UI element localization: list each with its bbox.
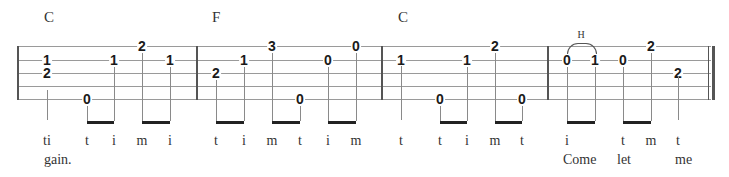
fret-number: 0 xyxy=(435,92,445,106)
note-stem xyxy=(623,67,624,121)
beam xyxy=(216,121,244,124)
picking-finger: t xyxy=(520,133,524,149)
note-stem xyxy=(170,67,171,121)
note-stem xyxy=(356,53,357,121)
note-stem xyxy=(272,53,273,121)
final-barline xyxy=(712,46,715,100)
picking-finger: m xyxy=(490,133,501,149)
chord-symbol: C xyxy=(44,9,54,26)
lyric-word: let xyxy=(617,152,631,168)
beam xyxy=(272,121,300,124)
fret-number: 2 xyxy=(646,39,656,53)
fret-number: 2 xyxy=(137,39,147,53)
staff-line xyxy=(17,46,711,47)
lyric-word: Come xyxy=(563,152,596,168)
barline xyxy=(547,46,549,100)
note-stem xyxy=(567,67,568,121)
picking-finger: t xyxy=(438,133,442,149)
beam xyxy=(440,121,467,124)
final-barline xyxy=(708,46,709,100)
note-stem xyxy=(244,67,245,121)
fret-number: 1 xyxy=(396,53,406,67)
fret-number: 1 xyxy=(462,53,472,67)
note-stem xyxy=(114,67,115,121)
picking-finger: m xyxy=(646,133,657,149)
picking-finger: i xyxy=(242,133,246,149)
note-stem xyxy=(651,53,652,121)
picking-finger: m xyxy=(267,133,278,149)
picking-finger: i xyxy=(465,133,469,149)
beam xyxy=(142,121,170,124)
fret-number: 2 xyxy=(490,39,500,53)
picking-finger: t xyxy=(399,133,403,149)
fret-number: 0 xyxy=(562,53,572,67)
note-stem xyxy=(47,90,48,120)
note-stem xyxy=(595,67,596,121)
picking-finger: i xyxy=(112,133,116,149)
staff-line xyxy=(17,73,711,74)
fret-number: 2 xyxy=(211,66,221,80)
fret-number: 1 xyxy=(165,53,175,67)
fret-number: 1 xyxy=(590,53,600,67)
hammer-on-label: H xyxy=(577,29,584,40)
chord-symbol: F xyxy=(212,9,220,26)
picking-finger: m xyxy=(137,133,148,149)
barline xyxy=(381,46,383,100)
fret-number: 1 xyxy=(239,53,249,67)
note-stem xyxy=(328,67,329,121)
hammer-on-arc xyxy=(567,43,597,54)
picking-finger: i xyxy=(168,133,172,149)
fret-number: 0 xyxy=(295,92,305,106)
fret-number: 3 xyxy=(267,39,277,53)
beam xyxy=(87,121,114,124)
barline xyxy=(17,46,19,100)
picking-finger: t xyxy=(85,133,89,149)
fret-number: 0 xyxy=(323,53,333,67)
note-stem xyxy=(495,53,496,121)
chord-symbol: C xyxy=(398,9,408,26)
picking-finger: t xyxy=(621,133,625,149)
lyric-word: me xyxy=(675,152,692,168)
fret-number: 0 xyxy=(82,92,92,106)
picking-finger: ti xyxy=(43,133,51,149)
note-stem xyxy=(440,106,441,121)
staff-line xyxy=(17,60,711,61)
note-stem xyxy=(467,67,468,121)
fret-number: 0 xyxy=(351,39,361,53)
barline xyxy=(196,46,198,100)
beam xyxy=(495,121,522,124)
fret-number: 2 xyxy=(42,66,52,80)
note-stem xyxy=(401,66,402,120)
picking-finger: t xyxy=(298,133,302,149)
picking-finger: m xyxy=(351,133,362,149)
note-stem xyxy=(678,76,679,120)
staff-line xyxy=(17,99,711,100)
beam xyxy=(567,121,595,124)
fret-number: 1 xyxy=(109,53,119,67)
note-stem xyxy=(300,106,301,121)
picking-finger: i xyxy=(326,133,330,149)
note-stem xyxy=(522,106,523,121)
beam xyxy=(623,121,651,124)
picking-finger: t xyxy=(214,133,218,149)
picking-finger: i xyxy=(565,133,569,149)
beam xyxy=(328,121,356,124)
note-stem xyxy=(216,80,217,121)
note-stem xyxy=(142,53,143,121)
fret-number: 0 xyxy=(517,92,527,106)
staff-line xyxy=(17,86,711,87)
picking-finger: t xyxy=(676,133,680,149)
fret-number: 0 xyxy=(618,53,628,67)
lyric-word: gain. xyxy=(44,152,72,168)
note-stem xyxy=(87,106,88,121)
